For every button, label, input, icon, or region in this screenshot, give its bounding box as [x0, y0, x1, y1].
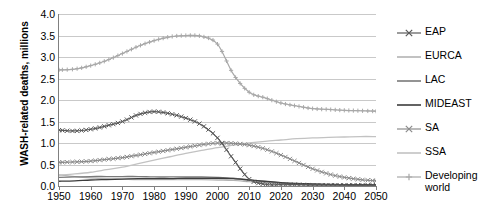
legend-swatch-x-icon	[396, 26, 422, 40]
legend-item-developing-world[interactable]: Developing world	[396, 170, 487, 194]
legend-item-ssa[interactable]: SSA	[396, 146, 487, 170]
legend-label: SSA	[422, 146, 446, 158]
y-tick-label: 2.0	[23, 95, 55, 105]
x-tick-label: 2050	[356, 190, 396, 202]
legend-label: LAC	[422, 74, 445, 86]
legend-item-sa[interactable]: SA	[396, 122, 487, 146]
legend-label: EURCA	[422, 50, 462, 62]
y-tick-label: 1.0	[23, 138, 55, 148]
legend-swatch-none-icon	[396, 74, 422, 88]
legend-item-eurca[interactable]: EURCA	[396, 50, 487, 74]
y-tick-label: 0.5	[23, 160, 55, 170]
legend-label: MIDEAST	[422, 98, 472, 110]
legend-item-eap[interactable]: EAP	[396, 26, 487, 50]
plot-area: 0.00.51.01.52.02.53.03.54.0 195019601970…	[58, 14, 376, 187]
y-tick-label: 3.5	[23, 31, 55, 41]
legend-item-mideast[interactable]: MIDEAST	[396, 98, 487, 122]
legend-swatch-none-icon	[396, 146, 422, 160]
legend-label: SA	[422, 122, 439, 134]
series-developing-world	[59, 33, 376, 113]
y-tick-label: 1.5	[23, 117, 55, 127]
legend-swatch-none-icon	[396, 98, 422, 112]
legend-label: EAP	[422, 26, 446, 38]
y-tick-label: 3.0	[23, 52, 55, 62]
legend-swatch-x-icon	[396, 122, 422, 136]
series-mideast	[59, 178, 376, 185]
legend-label: Developing world	[422, 170, 481, 193]
legend-item-lac[interactable]: LAC	[396, 74, 487, 98]
y-tick-label: 4.0	[23, 9, 55, 19]
y-tick-label: 2.5	[23, 74, 55, 84]
chart-legend: EAPEURCALACMIDEASTSASSADeveloping world	[396, 26, 487, 194]
legend-swatch-none-icon	[396, 50, 422, 64]
legend-swatch-plus-icon	[396, 170, 422, 184]
series-lines	[59, 14, 376, 186]
chart-figure: WASH-related deaths, millions 0.00.51.01…	[0, 0, 487, 221]
